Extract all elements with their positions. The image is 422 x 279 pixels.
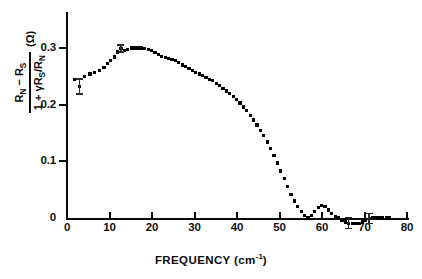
data-point: [289, 193, 292, 196]
data-point: [272, 154, 275, 157]
data-point: [279, 169, 282, 172]
x-tick-label-50: 50: [265, 221, 295, 233]
data-point: [269, 147, 272, 150]
data-point: [283, 177, 286, 180]
y-tick-0.2: [59, 104, 67, 106]
x-tick-label-80: 80: [392, 221, 422, 233]
x-tick-60: [321, 212, 323, 219]
error-bar-cap-upper: [76, 78, 83, 79]
y-axis-fraction: RN − RS 1 + γRS/RN: [13, 52, 47, 113]
data-point: [249, 114, 252, 117]
y-axis-line: [66, 12, 68, 220]
x-tick-label-60: 60: [307, 221, 337, 233]
plot-area: 0102030405060708000.10.20.3: [0, 0, 422, 279]
x-tick-80: [406, 212, 408, 219]
y-axis-units: (Ω): [24, 31, 36, 47]
error-bar-cap-lower: [366, 223, 373, 224]
data-point: [296, 205, 299, 208]
error-bar-cap-upper: [366, 213, 373, 214]
error-bar-cap-upper: [345, 217, 352, 218]
error-bar-cap-lower: [345, 228, 352, 229]
data-point: [276, 161, 279, 164]
data-point: [300, 210, 303, 213]
x-tick-label-20: 20: [137, 221, 167, 233]
data-point: [98, 69, 101, 72]
data-point: [88, 72, 91, 75]
x-tick-10: [109, 212, 111, 219]
data-point: [109, 59, 112, 62]
x-tick-label-10: 10: [95, 221, 125, 233]
figure-scatter-plot: 0102030405060708000.10.20.3 RN − RS 1 + …: [0, 0, 422, 279]
x-tick-30: [194, 212, 196, 219]
y-tick-label-0: 0: [22, 212, 56, 223]
data-point: [252, 118, 255, 121]
y-axis-title: RN − RS 1 + γRS/RN (Ω): [10, 0, 50, 157]
data-point: [102, 66, 105, 69]
error-bar: [348, 217, 349, 228]
data-point: [388, 216, 391, 219]
error-bar-cap-lower: [76, 93, 83, 94]
data-point: [266, 140, 269, 143]
x-tick-50: [279, 212, 281, 219]
error-bar-cap-lower: [117, 51, 124, 52]
data-point: [93, 71, 96, 74]
error-bar: [79, 79, 80, 94]
x-axis-exponent: -1: [256, 252, 263, 261]
y-tick-0.1: [59, 160, 67, 162]
y-axis-numerator: RN − RS: [13, 60, 29, 106]
data-point: [242, 105, 245, 108]
error-bar-cap-upper: [117, 44, 124, 45]
x-tick-label-40: 40: [222, 221, 252, 233]
data-point: [238, 101, 241, 104]
data-point: [293, 199, 296, 202]
x-tick-label-30: 30: [180, 221, 210, 233]
x-tick-20: [151, 212, 153, 219]
data-point: [286, 185, 289, 188]
data-point: [106, 62, 109, 65]
data-point: [245, 109, 248, 112]
data-point: [113, 55, 116, 58]
data-point: [262, 134, 265, 137]
y-tick-0.3: [59, 47, 67, 49]
x-axis-title: FREQUENCY (cm-1): [0, 252, 422, 266]
y-axis-denominator: 1 + γRS/RN: [31, 52, 47, 113]
data-point: [310, 214, 313, 217]
x-tick-40: [236, 212, 238, 219]
data-point: [313, 210, 316, 213]
data-point: [255, 123, 258, 126]
x-tick-0: [66, 212, 68, 219]
data-point: [259, 129, 262, 132]
data-point: [83, 75, 86, 78]
x-tick-label-0: 0: [52, 221, 82, 233]
